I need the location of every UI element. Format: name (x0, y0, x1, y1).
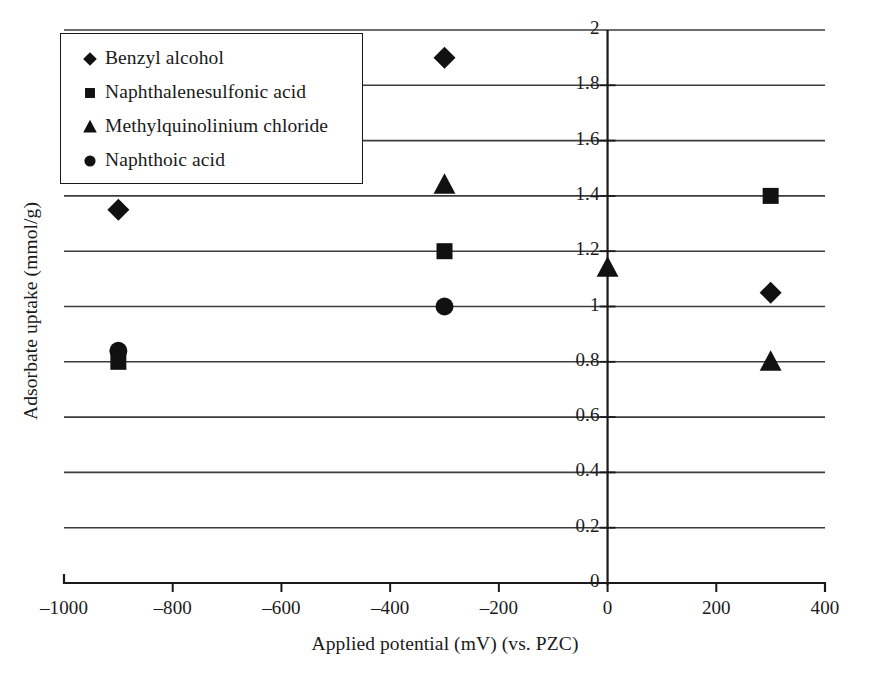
x-tick-label: –600 (221, 597, 341, 619)
y-tick-label: 0 (500, 570, 600, 592)
y-tick-label: 1.4 (500, 183, 600, 205)
legend-item: Naphthoic acid (61, 143, 362, 177)
legend-item: Methylquinolinium chloride (61, 109, 362, 143)
x-tick-label: 0 (548, 597, 668, 619)
square-icon (79, 82, 101, 102)
triangle-icon (79, 116, 101, 136)
data-point (436, 298, 454, 316)
chart-figure: Adsorbate uptake (mmol/g) Applied potent… (0, 0, 870, 681)
data-point (597, 256, 619, 276)
y-tick-label: 1 (500, 294, 600, 316)
x-tick-label: –800 (113, 597, 233, 619)
circle-icon (79, 150, 101, 170)
legend-item-label: Methylquinolinium chloride (101, 115, 328, 137)
data-point (434, 47, 456, 69)
x-tick-label: –400 (330, 597, 450, 619)
y-tick-label: 1.8 (500, 72, 600, 94)
data-point (109, 342, 127, 360)
chart-legend: Benzyl alcoholNaphthalenesulfonic acidMe… (60, 33, 363, 184)
y-tick-label: 1.6 (500, 128, 600, 150)
y-tick-label: 0.8 (500, 349, 600, 371)
y-tick-label: 0.4 (500, 459, 600, 481)
diamond-icon (79, 48, 101, 68)
data-point (434, 173, 456, 193)
legend-item-label: Naphthalenesulfonic acid (101, 81, 306, 103)
legend-item-label: Benzyl alcohol (101, 47, 224, 69)
y-tick-label: 0.6 (500, 404, 600, 426)
data-point (760, 282, 782, 304)
x-tick-label: 200 (656, 597, 776, 619)
x-axis-line (64, 574, 825, 592)
x-tick-label: 400 (765, 597, 870, 619)
legend-item: Naphthalenesulfonic acid (61, 75, 362, 109)
y-tick-label: 1.2 (500, 238, 600, 260)
legend-item-label: Naphthoic acid (101, 149, 225, 171)
x-tick-label: –1000 (4, 597, 124, 619)
y-tick-label: 0.2 (500, 515, 600, 537)
data-point (107, 199, 129, 221)
data-point (760, 350, 782, 370)
x-tick-label: –200 (439, 597, 559, 619)
legend-item: Benzyl alcohol (61, 41, 362, 75)
data-point (437, 243, 453, 259)
y-tick-label: 2 (500, 17, 600, 39)
data-point (763, 188, 779, 204)
